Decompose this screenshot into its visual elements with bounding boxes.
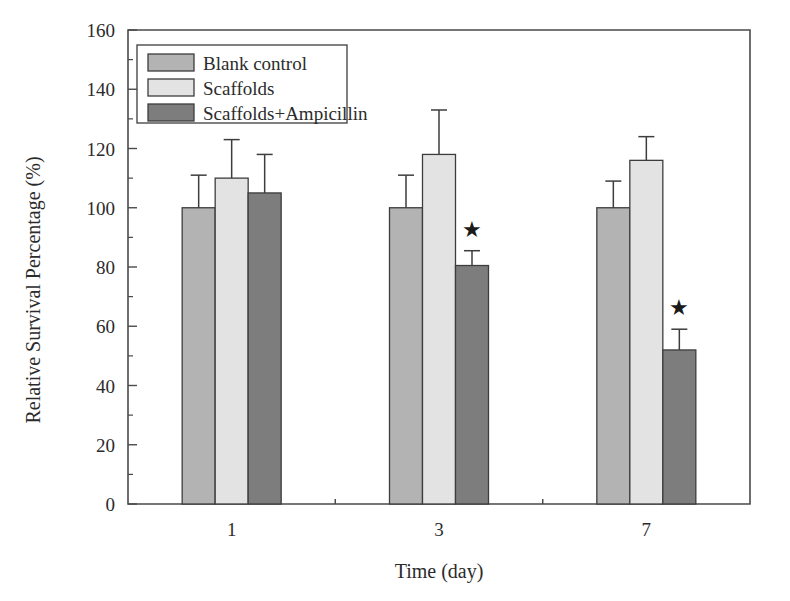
bar — [456, 266, 489, 504]
y-tick-label: 20 — [96, 435, 115, 456]
legend: Blank controlScaffoldsScaffolds+Ampicill… — [137, 45, 368, 124]
legend-label: Blank control — [203, 53, 307, 74]
bar — [630, 160, 663, 504]
y-tick-label: 60 — [96, 316, 115, 337]
chart-figure: 020406080100120140160 137 ★★ Relative Su… — [0, 0, 790, 601]
legend-swatch — [148, 54, 194, 71]
y-tick-label: 0 — [106, 494, 116, 515]
bar — [215, 178, 248, 504]
legend-label: Scaffolds+Ampicillin — [203, 103, 368, 124]
y-tick-label: 160 — [87, 20, 116, 41]
bar-chart-svg: 020406080100120140160 137 ★★ Relative Su… — [0, 0, 790, 601]
bar — [423, 154, 456, 504]
y-tick-label: 80 — [96, 257, 115, 278]
y-axis-title: Relative Survival Percentage (%) — [22, 156, 45, 423]
y-tick-label: 40 — [96, 376, 115, 397]
x-tick-label: 3 — [434, 519, 444, 540]
x-axis-title: Time (day) — [395, 560, 484, 583]
x-tick-label: 7 — [642, 519, 652, 540]
bar — [390, 208, 423, 504]
bar — [597, 208, 630, 504]
legend-swatch — [148, 104, 194, 121]
y-tick-label: 100 — [87, 198, 116, 219]
legend-swatch — [148, 79, 194, 96]
x-tick-label: 1 — [227, 519, 237, 540]
bar — [182, 208, 215, 504]
bar — [248, 193, 281, 504]
bar — [663, 350, 696, 504]
significance-star: ★ — [669, 295, 689, 320]
significance-star: ★ — [462, 217, 482, 242]
y-tick-label: 120 — [87, 139, 116, 160]
y-tick-label: 140 — [87, 79, 116, 100]
legend-label: Scaffolds — [203, 78, 274, 99]
